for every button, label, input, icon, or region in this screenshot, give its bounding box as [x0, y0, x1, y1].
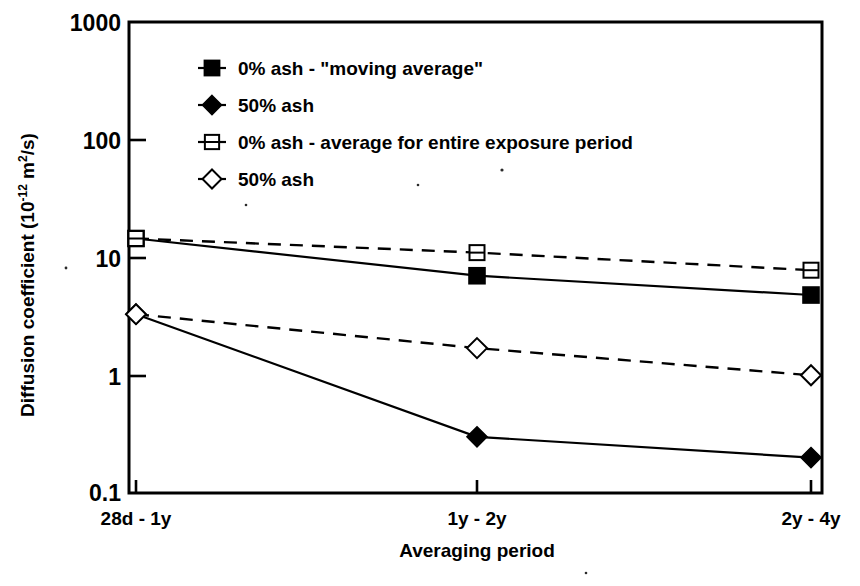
y-tick-label-1: 1: [108, 364, 121, 390]
marker-filled-square: [469, 268, 485, 284]
y-tick-label-0.1: 0.1: [89, 480, 121, 506]
marker-filled-diamond: [467, 427, 487, 447]
chart-figure: 1000 100 10 1 0.1 28d - 1y 1y - 2y 2y - …: [0, 0, 860, 586]
y-tick-labels: 1000 100 10 1 0.1: [70, 10, 121, 506]
marker-filled-diamond: [801, 448, 821, 468]
legend-item-label: 50% ash: [238, 95, 314, 116]
marker-open-diamond: [801, 365, 821, 385]
marker-filled-square: [204, 60, 219, 75]
legend-item-3[interactable]: 50% ash: [198, 169, 314, 190]
y-tick-label-100: 100: [83, 128, 121, 154]
legend-item-1[interactable]: 50% ash: [198, 95, 314, 116]
x-axis-ticks: [136, 480, 811, 493]
marker-open-diamond: [467, 338, 487, 358]
marker-open-diamond: [203, 170, 222, 189]
y-axis-ticks: [129, 140, 146, 376]
y-axis-title: Diffusion coefficient (10-12 m2/s): [16, 133, 38, 417]
y-tick-label-10: 10: [95, 246, 121, 272]
x-tick-label-0: 28d - 1y: [101, 508, 172, 529]
legend-item-label: 50% ash: [238, 169, 314, 190]
x-tick-label-1: 1y - 2y: [447, 508, 507, 529]
y-axis-title-mid: m: [17, 162, 38, 184]
chart-svg: 1000 100 10 1 0.1 28d - 1y 1y - 2y 2y - …: [0, 0, 860, 586]
x-axis-title: Averaging period: [399, 540, 555, 561]
y-axis-title-main: Diffusion coefficient (10: [17, 202, 38, 417]
y-tick-label-1000: 1000: [70, 10, 121, 36]
x-tick-label-2: 2y - 4y: [781, 508, 841, 529]
marker-filled-diamond: [203, 96, 222, 115]
chart-legend: 0% ash - "moving average"50% ash0% ash -…: [198, 58, 633, 190]
series-3-markers: [126, 304, 821, 385]
y-axis-title-exp1: -12: [16, 184, 30, 202]
y-axis-title-tail: /s): [17, 133, 38, 155]
series-1-markers: [126, 304, 821, 467]
legend-item-label: 0% ash - average for entire exposure per…: [238, 132, 633, 153]
series-layer: [126, 230, 821, 467]
legend-item-2[interactable]: 0% ash - average for entire exposure per…: [198, 132, 633, 153]
legend-item-label: 0% ash - "moving average": [238, 58, 483, 79]
legend-item-0[interactable]: 0% ash - "moving average": [198, 58, 483, 79]
marker-filled-square: [803, 287, 819, 303]
x-tick-labels: 28d - 1y 1y - 2y 2y - 4y: [101, 508, 841, 529]
